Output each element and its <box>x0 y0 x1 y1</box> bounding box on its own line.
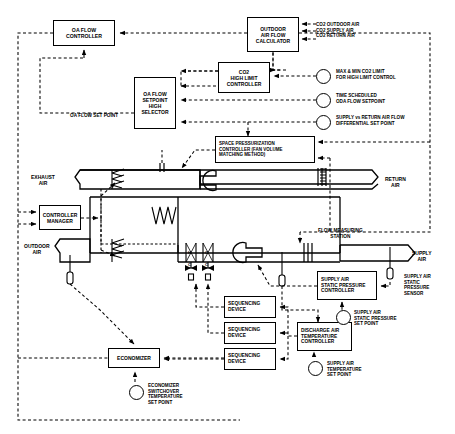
box-oa_flow_controller[interactable]: OA FLOWCONTROLLER <box>53 20 115 46</box>
return-air-duct <box>200 170 378 189</box>
box-sequencing_device_2[interactable]: SEQUENCINGDEVICE <box>224 322 276 344</box>
coil-marker-top: H <box>188 251 191 255</box>
label-line: AIR <box>412 256 432 262</box>
box-economizer[interactable]: ECONOMIZER <box>108 348 160 368</box>
signal-space-press-to-return-fan <box>182 150 215 168</box>
sensor-label-supply_air_static_pressure_sensor: SUPPLY AIRSTATICPRESSURESENSOR <box>404 274 431 297</box>
box-line: CONTROLLER <box>227 81 262 87</box>
label-line: DIFFERENTIAL SET POINT <box>336 121 405 127</box>
signal-right-bus <box>299 33 430 232</box>
coil-marker-heating_coil_marker: HC <box>188 251 191 267</box>
setpoint-label-economizer_switchover_sp: ECONOMIZERSWITCHOVERTEMPERATURESET POINT <box>148 383 183 406</box>
signal-seq1-to-heating-valve <box>196 284 224 307</box>
stream-label-outdoor_air: OUTDOORAIR <box>24 243 50 256</box>
supply-air-static-pressure-tap <box>387 247 393 279</box>
label-line: SET POINT <box>327 372 362 378</box>
setpoint-label-max_min_co2_limit: MAX & MIN CO2 LIMITFOR HIGH LIMIT CONTRO… <box>336 69 396 80</box>
box-line: DEVICE <box>228 307 246 313</box>
box-line: CONTROLLER <box>66 33 102 39</box>
label-line: CO2 OUTDOOR AIR <box>316 22 359 28</box>
box-supply_air_sp_ctrl[interactable]: SUPPLY AIRSTATIC PRESSURECONTROLLER <box>317 271 377 300</box>
coil-marker-bottom: C <box>205 263 208 267</box>
box-controller_manager[interactable]: CONTROLLERMANAGER <box>39 205 81 230</box>
ahu-main-section <box>178 197 340 253</box>
signal-seq2-to-cooling-valve <box>208 284 224 333</box>
setpoint-label-supply_return_diff_sp: SUPPLY vs RETURN AIR FLOWDIFFERENTIAL SE… <box>336 115 405 126</box>
ahu-casing <box>90 197 178 253</box>
stream-label-exhaust_air: EXHAUSTAIR <box>31 174 55 187</box>
outdoor-air-duct <box>55 239 90 262</box>
coil-marker-top: C <box>205 251 208 255</box>
box-line: MATCHING METHOD) <box>219 152 265 157</box>
setpoint-bubble-supply_air_sp_setpoint[interactable] <box>336 310 351 325</box>
setpoint-bubble-supply_return_diff_sp[interactable] <box>316 115 331 130</box>
label-line: SET POINT <box>354 321 396 327</box>
box-line: CONTROLLER <box>321 288 354 294</box>
return-flow-measuring-station <box>318 168 326 186</box>
box-line: CALCULATOR <box>256 38 290 44</box>
stream-label-return_air: RETURNAIR <box>385 176 406 189</box>
signal-sp-sensor-to-controller <box>381 282 390 286</box>
box-discharge_air_temp_ctrl[interactable]: DISCHARGE AIRTEMPERATURECONTROLLER <box>297 322 352 351</box>
box-line: SELECTOR <box>141 109 168 115</box>
exhaust-air-duct <box>75 170 200 189</box>
label-line: AIR <box>385 182 406 188</box>
setpoint-label-time_scheduled_oda_sp: TIME SCHEDULEDODA FLOW SETPOINT <box>336 93 385 104</box>
label-line: AIR <box>24 249 50 255</box>
setpoint-bubble-supply_air_temp_setpoint[interactable] <box>308 361 323 376</box>
setpoint-bubble-time_scheduled_oda_sp[interactable] <box>316 93 331 108</box>
box-space_press_ctrl[interactable]: SPACE PRESSURIZATIONCONTROLLER (FAN VOLU… <box>215 136 315 163</box>
label-line: AIR <box>31 180 55 186</box>
label-line: SET POINT <box>148 400 183 406</box>
label-line: STATION <box>318 234 363 240</box>
box-line: DEVICE <box>228 333 246 339</box>
outdoor-air-damper <box>112 239 124 262</box>
setpoint-label-supply_air_sp_setpoint: SUPPLY AIRSTATIC PRESSURESET POINT <box>354 310 396 327</box>
box-oa_flow_sp_high_sel[interactable]: OA FLOWSETPOINTHIGHSELECTOR <box>134 77 176 129</box>
setpoint-bubble-economizer_switchover_sp[interactable] <box>129 385 144 400</box>
discharge-air-temperature-sensor <box>279 252 285 286</box>
signal-afc-down <box>273 52 286 70</box>
exhaust-air-damper <box>112 169 124 189</box>
outdoor-air-temperature-sensor <box>67 255 73 284</box>
setpoint-bubble-max_min_co2_limit[interactable] <box>316 69 331 84</box>
coil-marker-bottom: C <box>188 263 191 267</box>
signal-dat-to-seq-3 <box>280 336 288 359</box>
signal-dat-to-seq-1 <box>280 307 297 336</box>
return-fan <box>200 170 216 190</box>
signal-dat-sensor-to-controller <box>282 286 318 322</box>
setpoint-label-supply_air_temp_setpoint: SUPPLY AIRTEMPERATURESET POINT <box>327 361 362 378</box>
label-line: ECONOMIZER <box>148 383 183 389</box>
stream-label-supply_air: SUPPLYAIR <box>412 250 432 263</box>
filter-element <box>152 207 176 224</box>
signal-oa-temp-to-economizer <box>70 284 134 344</box>
stream-label-flow_measuring_station: FLOW MEASURINGSTATION <box>318 228 363 240</box>
label-line: SENSOR <box>404 291 431 297</box>
box-line: CONTROLLER <box>301 339 334 345</box>
label-line: SUPPLY AIR <box>404 274 431 280</box>
box-line: DEVICE <box>228 359 246 365</box>
box-sequencing_device_1[interactable]: SEQUENCINGDEVICE <box>224 296 276 318</box>
box-line: ECONOMIZER <box>117 355 151 361</box>
box-sequencing_device_3[interactable]: SEQUENCINGDEVICE <box>224 348 276 370</box>
signal-co2-to-selector-a <box>181 71 218 86</box>
label-line: CO2 RETURN AIR <box>316 33 359 39</box>
label-line: SUPPLY vs RETURN AIR FLOW <box>336 115 405 121</box>
coil-marker-cooling_coil_marker: CC <box>205 251 208 267</box>
label-line: ODA FLOW SETPOINT <box>336 99 385 105</box>
signal-label-oa_flow_set_point: OA FLOW SET POINT <box>70 113 118 119</box>
signal-oa-flow-setpoint <box>40 58 134 113</box>
signal-sp-controller-to-supply-fan <box>258 265 317 286</box>
box-co2_high_limit_ctrl[interactable]: CO2HIGH LIMITCONTROLLER <box>218 62 270 93</box>
box-outdoor_air_flow_calc[interactable]: OUTDOORAIR FLOWCALCULATOR <box>247 17 299 52</box>
setpoint-label-co2_signals: CO2 OUTDOOR AIRCO2 SUPPLY AIRCO2 RETURN … <box>316 22 359 39</box>
label-line: FOR HIGH LIMIT CONTROL <box>336 75 396 81</box>
box-line: MANAGER <box>47 218 73 224</box>
